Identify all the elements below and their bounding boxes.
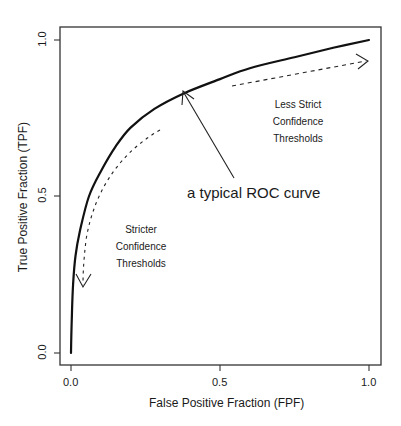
less-strict-dashed-arrow: [232, 54, 368, 86]
x-tick-label-1: 1.0: [361, 376, 376, 388]
callout-arrow: [182, 91, 234, 178]
less-strict-line-1: Less Strict: [253, 96, 343, 113]
less-strict-line-2: Confidence: [253, 113, 343, 130]
stricter-thresholds-note: Stricter Confidence Thresholds: [96, 221, 186, 272]
roc-chart: [0, 0, 401, 426]
stricter-line-2: Confidence: [96, 238, 186, 255]
roc-curve-callout: a typical ROC curve: [187, 184, 320, 201]
y-tick-label-05: 0.5: [36, 187, 48, 202]
x-axis-ticks: [71, 365, 369, 371]
y-tick-label-1: 1.0: [36, 31, 48, 46]
stricter-line-1: Stricter: [96, 221, 186, 238]
stricter-line-3: Thresholds: [96, 255, 186, 272]
x-tick-label-0: 0.0: [63, 376, 78, 388]
less-strict-line-3: Thresholds: [253, 130, 343, 147]
less-strict-thresholds-note: Less Strict Confidence Thresholds: [253, 96, 343, 147]
x-tick-label-05: 0.5: [212, 376, 227, 388]
y-axis-ticks: [54, 40, 60, 353]
y-tick-label-0: 0.0: [36, 344, 48, 359]
x-axis-title: False Positive Fraction (FPF): [149, 396, 304, 410]
y-axis-title: True Positive Fraction (TPF): [16, 114, 30, 280]
